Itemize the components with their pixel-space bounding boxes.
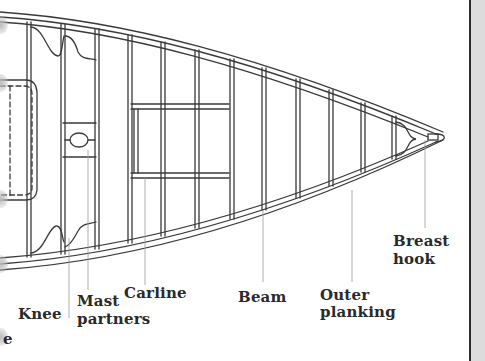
label-knee: Knee [18, 306, 62, 323]
bow-tip [436, 134, 444, 142]
page-edge [469, 0, 485, 361]
knees [31, 27, 96, 253]
hull-drawing [0, 0, 485, 361]
mast-partners [63, 123, 96, 157]
label-mast-partners-2: partners [77, 311, 150, 328]
top-gunwale [0, 12, 443, 137]
label-cut-off-fragment: e [3, 331, 13, 348]
label-outer-planking-2: planking [320, 304, 396, 321]
label-outer-planking-1: Outer [320, 287, 369, 304]
label-breast-hook-1: Breast [393, 233, 449, 250]
stem-block [428, 134, 438, 140]
label-breast-hook-2: hook [393, 251, 435, 268]
label-mast-partners-1: Mast [77, 293, 120, 310]
label-carline: Carline [124, 285, 187, 302]
label-beam: Beam [238, 289, 287, 306]
bottom-gunwale [0, 140, 443, 270]
deck-framing-diagram: Knee Mast partners Carline Beam Outer pl… [0, 0, 485, 361]
hatch [131, 104, 229, 178]
fore-hatch-outline [0, 80, 37, 200]
